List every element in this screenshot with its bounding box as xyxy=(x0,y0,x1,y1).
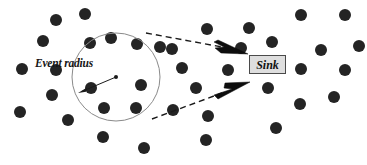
sensor-node xyxy=(294,98,306,110)
sensor-node xyxy=(315,44,327,56)
sensor-node xyxy=(243,22,255,34)
sensor-node xyxy=(97,131,109,143)
sensor-node xyxy=(138,142,150,154)
sensor-node xyxy=(16,63,28,75)
sensor-node xyxy=(262,82,274,94)
sensor-node xyxy=(130,102,142,114)
sink-label: Sink xyxy=(256,59,279,71)
sensor-node xyxy=(131,38,143,50)
sensor-node xyxy=(14,106,26,118)
sensor-node xyxy=(135,79,147,91)
sensor-node xyxy=(295,63,307,75)
sensor-node xyxy=(154,41,166,53)
sensor-nodes-layer xyxy=(14,8,365,154)
sensor-node xyxy=(190,82,202,94)
sensor-node xyxy=(98,102,110,114)
sensor-node xyxy=(270,122,282,134)
event-radius-label: Event radius xyxy=(35,57,93,69)
sensor-node xyxy=(166,43,178,55)
sink-node-box: Sink xyxy=(249,55,286,74)
event-center-dot xyxy=(114,75,118,79)
diagram-canvas xyxy=(0,0,367,165)
wireless-sensor-network-diagram: Event radius Sink xyxy=(0,0,367,165)
sensor-node xyxy=(222,64,234,76)
sensor-node xyxy=(176,62,188,74)
sensor-node xyxy=(50,14,62,26)
sensor-node xyxy=(339,64,351,76)
radius-indicator-layer xyxy=(78,75,118,93)
sensor-node xyxy=(202,110,214,122)
sensor-node xyxy=(62,114,74,126)
sensor-node xyxy=(339,9,351,21)
sensor-node xyxy=(328,91,340,103)
sensor-node xyxy=(167,104,179,116)
lower-arrowhead xyxy=(214,82,250,99)
sensor-node xyxy=(46,89,58,101)
sensor-node xyxy=(201,23,213,35)
sensor-node xyxy=(266,36,278,48)
sensor-node xyxy=(37,35,49,47)
sensor-node xyxy=(79,8,91,20)
sensor-node xyxy=(295,9,307,21)
sensor-node xyxy=(200,134,212,146)
sensor-node xyxy=(353,40,365,52)
